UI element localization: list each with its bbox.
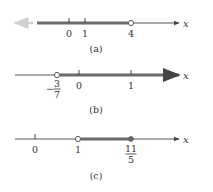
fraction-label-neg-3-7: − 3 7: [46, 78, 60, 100]
denominator: 7: [54, 89, 60, 100]
caption-b: (b): [89, 104, 103, 115]
tick-label-0: 0: [66, 28, 72, 39]
open-endpoint-icon: [54, 72, 59, 77]
tick-label-1: 1: [128, 80, 134, 91]
number-line-b: x 0 1 − 3 7 (b): [15, 70, 189, 116]
tick-label-0: 0: [32, 144, 38, 155]
caption-c: (c): [90, 170, 103, 181]
numerator: 3: [54, 78, 60, 89]
fraction-label-11-5: 11 5: [125, 143, 137, 165]
closed-endpoint-icon: [129, 137, 134, 142]
open-endpoint-icon: [75, 136, 80, 141]
number-line-diagram: x 0 1 4 (a) x 0 1 − 3 7 (b) x 0 1 1: [0, 0, 213, 192]
left-endpoint-label: 1: [75, 144, 81, 155]
minus-sign: −: [46, 83, 54, 94]
tick-label-1: 1: [82, 28, 88, 39]
numerator: 11: [125, 143, 137, 154]
open-endpoint-icon: [128, 20, 133, 25]
axis-label-x: x: [183, 134, 189, 145]
endpoint-label: 4: [128, 28, 134, 39]
caption-a: (a): [89, 43, 102, 54]
denominator: 5: [128, 154, 134, 165]
tick-label-0: 0: [76, 80, 82, 91]
number-line-a: x 0 1 4 (a): [15, 18, 189, 55]
axis-label-x: x: [183, 70, 189, 81]
number-line-c: x 0 1 11 5 (c): [15, 134, 189, 182]
axis-label-x: x: [183, 18, 189, 29]
